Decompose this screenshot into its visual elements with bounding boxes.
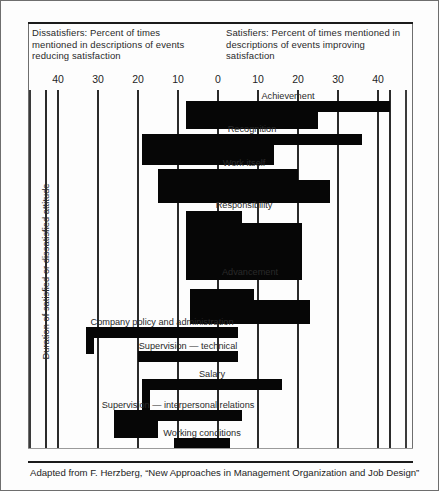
factor-label-company-policy-and-administration: Company policy and administration: [91, 317, 234, 327]
bar-short-duration-1: [186, 101, 390, 112]
bar-short-duration-4: [186, 211, 242, 223]
bar-short-duration-7: [138, 351, 238, 362]
bar-short-duration-2: [142, 134, 362, 145]
source-attribution: Adapted from F. Herzberg, “New Approache…: [30, 467, 430, 479]
factor-label-salary: Salary: [199, 369, 225, 379]
bar-short-duration-3: [158, 169, 298, 180]
bar-short-duration-8: [142, 379, 282, 390]
herzberg-chart-figure: Dissatisfiers: Percent of times mentione…: [0, 0, 439, 491]
bar-short-duration-6: [86, 327, 238, 338]
factor-label-responsibility: Responsibility: [216, 200, 273, 210]
bar-short-duration-9: [114, 410, 242, 421]
factor-label-work-itself: Work itself: [223, 158, 266, 168]
plot-bottom-border: [28, 448, 413, 449]
bar-long-duration-6: [86, 338, 94, 354]
factor-label-recognition: Recognition: [228, 124, 277, 134]
footer-divider: [28, 461, 413, 463]
factor-label-advancement: Advancement: [222, 267, 278, 277]
factor-label-supervision-technical: Supervision — technical: [139, 341, 238, 351]
factor-label-achievement: Achievement: [261, 91, 314, 101]
bar-short-duration-5: [190, 289, 254, 300]
bars-layer: AchievementRecognitionWork itselfRespons…: [1, 1, 439, 491]
factor-label-working-conditions: Working conditions: [163, 428, 240, 438]
bar-long-duration-9: [114, 421, 158, 438]
factor-label-supervision-interpersonal-relations: Supervision — interpersonal relations: [102, 400, 255, 410]
